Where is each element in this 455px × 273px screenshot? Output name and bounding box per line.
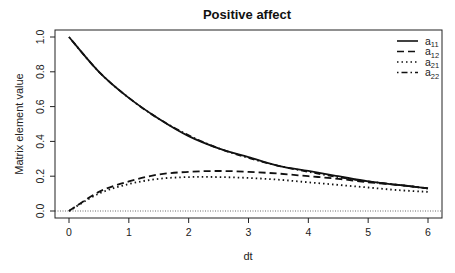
legend: a11a12a21a22 xyxy=(397,35,439,81)
x-axis-label: dt xyxy=(243,250,252,262)
y-tick-label: 1.0 xyxy=(34,30,46,45)
x-tick-label: 5 xyxy=(365,226,371,238)
series-a11-line xyxy=(69,37,428,188)
line-chart: Positive affect 01234560.00.20.40.60.81.… xyxy=(0,0,455,273)
y-tick-label: 0.6 xyxy=(34,99,46,114)
y-axis-label: Matrix element value xyxy=(13,73,25,175)
axes: 01234560.00.20.40.60.81.0 xyxy=(34,30,442,238)
y-tick-label: 0.4 xyxy=(34,134,46,149)
series-a22-line xyxy=(69,37,428,188)
x-tick-label: 1 xyxy=(126,226,132,238)
y-tick-label: 0.2 xyxy=(34,169,46,184)
x-tick-label: 2 xyxy=(186,226,192,238)
data-lines xyxy=(69,37,428,211)
series-a12-line xyxy=(69,171,428,211)
y-tick-label: 0.0 xyxy=(34,204,46,219)
x-tick-label: 4 xyxy=(305,226,311,238)
x-tick-label: 3 xyxy=(246,226,252,238)
x-tick-label: 0 xyxy=(66,226,72,238)
y-tick-label: 0.8 xyxy=(34,64,46,79)
chart-title: Positive affect xyxy=(203,7,292,22)
x-tick-label: 6 xyxy=(425,226,431,238)
plot-frame xyxy=(55,30,442,218)
